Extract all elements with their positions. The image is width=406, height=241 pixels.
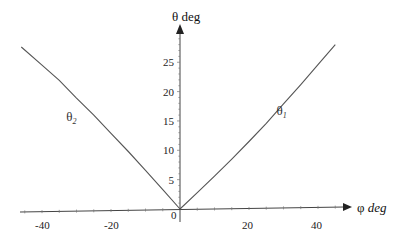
curve-label-theta2: θ2 (66, 109, 76, 126)
y-tick-label: 15 (163, 115, 175, 127)
curve-theta1 (180, 45, 335, 209)
curve-label-subscript: 2 (72, 117, 76, 126)
curve-theta2 (21, 47, 180, 209)
y-tick-label: 20 (163, 86, 175, 98)
x-tick-label: -20 (104, 219, 119, 231)
x-axis-arrow-icon (343, 203, 352, 211)
x-axis-unit: deg (368, 200, 387, 215)
curve-label-theta1: θ1 (277, 103, 287, 120)
y-axis-arrow-icon (176, 24, 184, 34)
y-tick-label: 5 (169, 174, 175, 186)
curve-label-subscript: 1 (283, 111, 287, 120)
x-tick-label: 40 (311, 219, 323, 231)
curves (21, 45, 335, 209)
x-tick-label: 0 (171, 209, 177, 221)
x-tick-label: 20 (242, 219, 254, 231)
x-tick-label: -40 (35, 219, 50, 231)
y-tick-label: 25 (163, 56, 175, 68)
x-axis-symbol: φ (357, 200, 368, 215)
y-axis-title: θ deg (172, 9, 201, 24)
labels: θ degφ degθ1θ2 (66, 9, 387, 215)
y-tick-label: 10 (163, 144, 175, 156)
x-axis-title: φ deg (357, 200, 387, 215)
chart: -40-2002040510152025 θ degφ degθ1θ2 (0, 0, 406, 241)
